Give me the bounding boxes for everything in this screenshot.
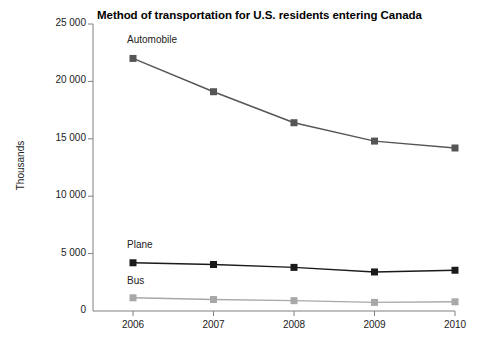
data-point-bus-2008[interactable] — [291, 297, 298, 304]
data-point-plane-2009[interactable] — [371, 268, 378, 275]
data-point-automobile-2009[interactable] — [371, 138, 378, 145]
data-series — [130, 55, 459, 306]
data-point-plane-2008[interactable] — [291, 264, 298, 271]
data-point-automobile-2007[interactable] — [210, 88, 217, 95]
data-point-bus-2010[interactable] — [452, 298, 459, 305]
data-point-bus-2009[interactable] — [371, 299, 378, 306]
data-point-bus-2006[interactable] — [130, 294, 137, 301]
data-point-automobile-2008[interactable] — [291, 119, 298, 126]
data-point-plane-2007[interactable] — [210, 261, 217, 268]
data-point-plane-2010[interactable] — [452, 267, 459, 274]
chart-container: Method of transportation for U.S. reside… — [0, 0, 477, 348]
axes — [88, 24, 455, 316]
data-point-automobile-2010[interactable] — [452, 144, 459, 151]
data-point-bus-2007[interactable] — [210, 296, 217, 303]
plot-area — [0, 0, 477, 348]
data-point-automobile-2006[interactable] — [130, 55, 137, 62]
series-line-automobile — [133, 58, 455, 148]
data-point-plane-2006[interactable] — [130, 259, 137, 266]
